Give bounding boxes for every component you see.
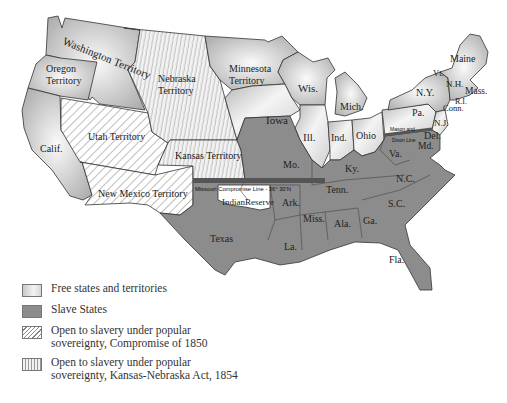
label-oregon-1: Oregon [46, 63, 76, 74]
label-minnesota-1: Minnesota [229, 63, 272, 74]
label-iowa: Iowa [266, 114, 288, 126]
label-md: Md. [418, 141, 434, 151]
diagonal-hatch-swatch-icon [22, 326, 42, 339]
label-missouri-compromise: Missouri Compromise Line - 36° 30'N [195, 186, 291, 192]
label-mass: Mass. [465, 86, 487, 96]
label-indian-reserve: IndianReserve [222, 197, 274, 207]
label-oregon-2: Territory [46, 75, 81, 86]
label-mason-dixon-1: Mason and [390, 126, 415, 132]
label-ala: Ala. [334, 218, 351, 229]
label-mich: Mich. [340, 101, 364, 112]
label-new-mexico: New Mexico Territory [98, 188, 188, 199]
label-nj: N.J. [434, 118, 449, 128]
label-calif: Calif. [40, 143, 63, 154]
label-ny: N.Y. [416, 87, 434, 98]
label-pa: Pa. [412, 107, 425, 118]
label-nebraska-1: Nebraska [158, 73, 196, 84]
label-la: La. [284, 241, 297, 252]
legend-item-free: Free states and territories [22, 282, 241, 297]
label-nh: N.H. [446, 79, 464, 89]
label-ohio: Ohio [356, 130, 376, 141]
label-ind: Ind. [331, 132, 347, 143]
label-maine: Maine [450, 53, 476, 64]
label-utah: Utah Territory [88, 131, 145, 142]
label-minnesota-2: Territory [229, 75, 264, 86]
label-texas: Texas [210, 233, 233, 244]
label-conn: Conn. [443, 103, 464, 113]
label-tenn: Tenn. [326, 184, 348, 195]
legend-label: Open to slavery under popular sovereignt… [51, 324, 241, 350]
label-ga: Ga. [363, 215, 377, 226]
legend-item-kansas-nebraska-1854: Open to slavery under popular sovereignt… [22, 356, 241, 382]
legend-label: Slave States [51, 303, 107, 316]
label-nebraska-2: Territory [158, 85, 193, 96]
label-vt: Vt. [433, 68, 444, 78]
label-mo: Mo. [283, 159, 299, 170]
label-del: Del. [424, 130, 441, 141]
label-ark: Ark. [282, 197, 300, 208]
legend-item-compromise-1850: Open to slavery under popular sovereignt… [22, 324, 241, 350]
slave-swatch-icon [22, 305, 42, 318]
label-wis: Wis. [298, 82, 318, 94]
label-ill: Ill. [303, 131, 316, 143]
vertical-hatch-swatch-icon [22, 358, 42, 371]
label-mason-dixon-2: Dixon Line [392, 137, 416, 143]
label-va: Va. [389, 148, 402, 159]
legend-item-slave: Slave States [22, 303, 241, 318]
label-miss: Miss. [303, 213, 325, 224]
label-nc: N.C. [396, 173, 415, 184]
label-ky: Ky. [345, 163, 359, 174]
free-swatch-icon [22, 284, 42, 297]
legend-label: Free states and territories [51, 282, 167, 295]
map-legend: Free states and territories Slave States… [22, 282, 241, 388]
label-fla: Fla. [389, 254, 404, 265]
legend-label: Open to slavery under popular sovereignt… [51, 356, 241, 382]
missouri-compromise-line [193, 178, 325, 183]
label-kansas: Kansas Territory [175, 150, 242, 161]
label-sc: S.C. [388, 198, 405, 209]
